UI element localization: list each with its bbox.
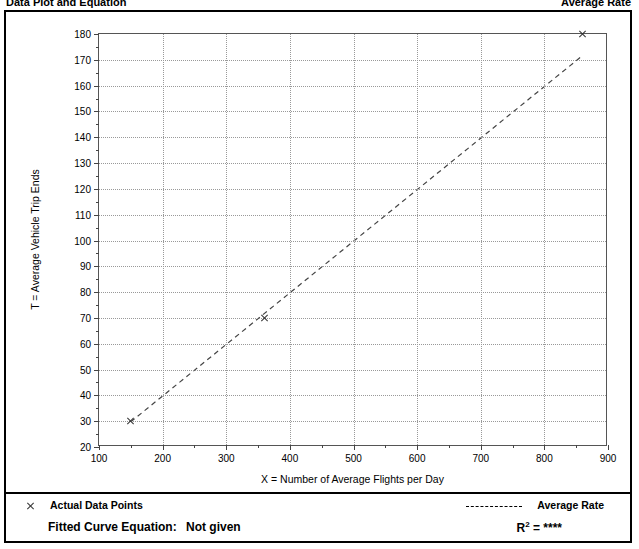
y-axis-tick-label: 30 <box>80 416 91 427</box>
y-axis-minor-tick <box>96 408 99 409</box>
y-axis-tick-label: 140 <box>74 132 91 143</box>
page-header-right-title: Average Rate <box>561 0 631 8</box>
y-axis-minor-tick <box>96 382 99 383</box>
gridline-vertical <box>163 34 164 445</box>
x-axis-tick-label: 900 <box>600 453 617 464</box>
y-axis-minor-tick <box>96 305 99 306</box>
gridline-horizontal <box>99 60 606 61</box>
y-axis-tick <box>94 266 99 267</box>
y-axis-minor-tick <box>96 434 99 435</box>
plot-area: 2030405060708090100110120130140150160170… <box>98 33 607 446</box>
gridline-horizontal <box>99 318 606 319</box>
y-axis-tick <box>94 111 99 112</box>
y-axis-tick <box>94 370 99 371</box>
legend-label-average-rate: Average Rate <box>537 499 604 511</box>
x-axis-tick-label: 100 <box>91 453 108 464</box>
x-axis-tick <box>163 445 164 450</box>
x-axis-minor-tick <box>449 445 450 448</box>
y-axis-tick-label: 90 <box>80 261 91 272</box>
x-axis-tick-label: 500 <box>345 453 362 464</box>
y-axis-tick-label: 120 <box>74 183 91 194</box>
y-axis-tick-label: 60 <box>80 338 91 349</box>
gridline-vertical <box>290 34 291 445</box>
y-axis-minor-tick <box>96 228 99 229</box>
gridline-vertical <box>544 34 545 445</box>
x-axis-tick-label: 400 <box>282 453 299 464</box>
x-axis-minor-tick <box>322 445 323 448</box>
y-axis-minor-tick <box>96 47 99 48</box>
y-axis-tick <box>94 421 99 422</box>
y-axis-tick <box>94 60 99 61</box>
y-axis-tick <box>94 189 99 190</box>
gridline-horizontal <box>99 86 606 87</box>
legend-label-data-points: Actual Data Points <box>50 499 143 511</box>
gridline-horizontal <box>99 189 606 190</box>
y-axis-tick-label: 40 <box>80 390 91 401</box>
y-axis-tick-label: 80 <box>80 287 91 298</box>
x-axis-tick-label: 700 <box>472 453 489 464</box>
y-axis-tick <box>94 292 99 293</box>
page-header: Data Plot and Equation Average Rate <box>0 0 639 10</box>
y-axis-tick <box>94 395 99 396</box>
r-squared-value: R2 = **** <box>516 520 562 535</box>
x-axis-tick <box>481 445 482 450</box>
gridline-horizontal <box>99 266 606 267</box>
y-axis-minor-tick <box>96 150 99 151</box>
gridline-horizontal <box>99 137 606 138</box>
gridline-horizontal <box>99 370 606 371</box>
y-axis-tick-label: 130 <box>74 158 91 169</box>
gridline-vertical <box>481 34 482 445</box>
gridline-horizontal <box>99 292 606 293</box>
y-axis-tick <box>94 34 99 35</box>
x-axis-tick <box>354 445 355 450</box>
x-axis-minor-tick <box>385 445 386 448</box>
x-axis-tick <box>226 445 227 450</box>
dashed-line-icon <box>466 506 522 507</box>
y-axis-tick-label: 160 <box>74 80 91 91</box>
y-axis-minor-tick <box>96 99 99 100</box>
y-axis-tick <box>94 163 99 164</box>
x-axis-tick-label: 800 <box>536 453 553 464</box>
x-axis-tick-label: 200 <box>154 453 171 464</box>
y-axis-tick-label: 50 <box>80 364 91 375</box>
r-squared-exponent: 2 <box>525 520 529 529</box>
y-axis-tick <box>94 137 99 138</box>
x-axis-minor-tick <box>576 445 577 448</box>
y-axis-minor-tick <box>96 253 99 254</box>
gridline-horizontal <box>99 344 606 345</box>
y-axis-tick <box>94 241 99 242</box>
r-squared-stars: **** <box>543 521 562 535</box>
gridline-horizontal <box>99 163 606 164</box>
legend-row-equation: Fitted Curve Equation: Not given R2 = **… <box>6 519 630 539</box>
average-rate-trendline <box>99 34 606 445</box>
fitted-curve-equation: Fitted Curve Equation: Not given <box>48 520 241 534</box>
x-axis-minor-tick <box>258 445 259 448</box>
r-squared-symbol: R <box>516 521 525 535</box>
y-axis-minor-tick <box>96 202 99 203</box>
y-axis-tick <box>94 318 99 319</box>
y-axis-tick <box>94 86 99 87</box>
fitted-curve-equation-label: Fitted Curve Equation: <box>48 520 177 534</box>
x-axis-tick <box>544 445 545 450</box>
y-axis-tick-label: 180 <box>74 29 91 40</box>
x-axis-minor-tick <box>194 445 195 448</box>
x-axis-title: X = Number of Average Flights per Day <box>98 473 607 485</box>
chart-frame: T = Average Vehicle Trip Ends X = Number… <box>4 10 632 543</box>
y-axis-minor-tick <box>96 176 99 177</box>
x-axis-tick <box>608 445 609 450</box>
x-axis-tick <box>417 445 418 450</box>
y-axis-tick-label: 150 <box>74 106 91 117</box>
x-axis-minor-tick <box>513 445 514 448</box>
y-axis-minor-tick <box>96 357 99 358</box>
y-axis-tick-label: 20 <box>80 442 91 453</box>
gridline-horizontal <box>99 111 606 112</box>
y-axis-minor-tick <box>96 279 99 280</box>
x-axis-tick <box>99 445 100 450</box>
legend-row-series: Actual Data Points Average Rate <box>6 497 630 515</box>
gridline-vertical <box>354 34 355 445</box>
y-axis-title: T = Average Vehicle Trip Ends <box>28 33 42 446</box>
y-axis-minor-tick <box>96 331 99 332</box>
gridline-vertical <box>417 34 418 445</box>
x-axis-tick-label: 600 <box>409 453 426 464</box>
y-axis-tick <box>94 215 99 216</box>
